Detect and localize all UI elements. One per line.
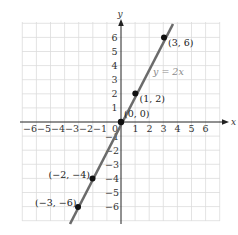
svg-text:2: 2 bbox=[112, 88, 118, 99]
x-axis-label: x bbox=[231, 117, 236, 127]
svg-text:3: 3 bbox=[112, 74, 118, 85]
svg-text:6: 6 bbox=[112, 32, 118, 43]
svg-text:1: 1 bbox=[112, 102, 118, 113]
point-3-6 bbox=[161, 35, 167, 41]
svg-text:4: 4 bbox=[175, 123, 181, 134]
coordinate-plane: x y −6 −5 −4 −3 −2 −1 0 1 2 3 4 5 6 1 2 … bbox=[0, 0, 238, 235]
svg-text:3: 3 bbox=[161, 123, 167, 134]
svg-text:6: 6 bbox=[203, 123, 209, 134]
y-axis-label: y bbox=[117, 9, 124, 19]
svg-text:−6: −6 bbox=[23, 123, 37, 134]
point-1-2 bbox=[132, 91, 138, 97]
point-neg2-neg4 bbox=[90, 176, 96, 182]
label-neg2-neg4: (−2, −4) bbox=[49, 169, 90, 180]
svg-text:−6: −6 bbox=[105, 201, 119, 212]
svg-text:−4: −4 bbox=[51, 123, 65, 134]
svg-text:5: 5 bbox=[112, 46, 118, 57]
label-1-2: (1, 2) bbox=[140, 93, 166, 104]
label-3-6: (3, 6) bbox=[168, 37, 194, 48]
svg-text:1: 1 bbox=[133, 123, 139, 134]
y-axis-arrow-icon bbox=[118, 19, 124, 26]
label-0-0: (0, 0) bbox=[124, 108, 150, 119]
svg-text:−2: −2 bbox=[79, 123, 93, 134]
svg-text:−4: −4 bbox=[105, 173, 119, 184]
svg-text:−5: −5 bbox=[37, 123, 51, 134]
equation-label: y = 2x bbox=[152, 66, 184, 77]
label-neg3-neg6: (−3, −6) bbox=[35, 197, 76, 208]
svg-text:−3: −3 bbox=[105, 159, 119, 170]
x-axis-arrow-icon bbox=[222, 119, 229, 125]
svg-text:4: 4 bbox=[112, 60, 118, 71]
point-0-0 bbox=[118, 119, 124, 125]
svg-text:2: 2 bbox=[147, 123, 153, 134]
svg-text:5: 5 bbox=[189, 123, 195, 134]
svg-text:−5: −5 bbox=[105, 187, 119, 198]
svg-text:−3: −3 bbox=[65, 123, 79, 134]
